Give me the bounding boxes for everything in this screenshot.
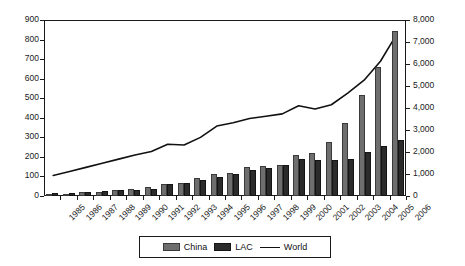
right-axis-tick <box>406 152 410 153</box>
bar-group <box>159 20 175 196</box>
bar-group <box>126 20 142 196</box>
x-axis-tick <box>307 196 308 200</box>
x-axis-label: 2001 <box>330 202 350 222</box>
left-axis-tick-label: 500 <box>6 93 39 102</box>
x-axis-label: 2006 <box>412 202 432 222</box>
right-axis-tick <box>406 64 410 65</box>
bar-lac <box>315 160 321 196</box>
bar-lac <box>69 193 75 196</box>
bar-lac <box>348 159 354 196</box>
bar-lac <box>398 140 404 196</box>
bar-group <box>258 20 274 196</box>
bar-lac <box>118 190 124 196</box>
legend-swatch-china-icon <box>163 243 180 251</box>
x-axis-tick <box>291 196 292 200</box>
right-axis-tick-label: 8,000 <box>413 15 453 24</box>
bar-group <box>390 20 406 196</box>
bar-lac <box>167 184 173 196</box>
x-axis-label: 1995 <box>231 202 251 222</box>
bar-group <box>110 20 126 196</box>
x-axis-label: 1994 <box>215 202 235 222</box>
x-axis-tick <box>176 196 177 200</box>
right-axis-tick <box>406 42 410 43</box>
x-axis-label: 1986 <box>83 202 103 222</box>
x-axis-label: 1997 <box>264 202 284 222</box>
left-axis-tick-label: 600 <box>6 74 39 83</box>
left-axis-tick-label: 200 <box>6 152 39 161</box>
x-axis-label: 1996 <box>248 202 268 222</box>
right-axis-tick-label: 6,000 <box>413 59 453 68</box>
x-axis-label: 1998 <box>281 202 301 222</box>
bar-group <box>274 20 290 196</box>
bar-lac <box>365 152 371 196</box>
x-axis-tick <box>159 196 160 200</box>
bar-lac <box>250 170 256 196</box>
right-axis-tick-label: 2,000 <box>413 147 453 156</box>
left-axis-tick-label: 900 <box>6 15 39 24</box>
chart-legend: China LAC World <box>139 236 331 258</box>
bar-lac <box>381 146 387 196</box>
bar-lac <box>233 174 239 196</box>
bar-group <box>225 20 241 196</box>
bar-group <box>357 20 373 196</box>
bar-group <box>77 20 93 196</box>
bar-group <box>60 20 76 196</box>
right-axis-tick-label: 7,000 <box>413 37 453 46</box>
legend-label-china: China <box>184 242 208 252</box>
bar-lac <box>151 189 157 196</box>
x-axis-label: 1999 <box>297 202 317 222</box>
left-axis-tick-label: 0 <box>6 191 39 200</box>
right-axis-tick <box>406 20 410 21</box>
x-axis-tick <box>77 196 78 200</box>
legend-label-lac: LAC <box>235 242 253 252</box>
x-axis-tick <box>241 196 242 200</box>
x-axis-tick <box>324 196 325 200</box>
x-axis-tick <box>60 196 61 200</box>
right-axis-tick-label: 5,000 <box>413 81 453 90</box>
legend-line-world-icon <box>260 247 280 248</box>
bar-group <box>209 20 225 196</box>
right-axis-tick-label: 0 <box>413 191 453 200</box>
right-axis-tick <box>406 130 410 131</box>
x-axis-tick <box>390 196 391 200</box>
right-axis-tick <box>406 86 410 87</box>
legend-item-lac: LAC <box>214 242 253 252</box>
bar-group <box>176 20 192 196</box>
left-axis-tick-label: 400 <box>6 113 39 122</box>
x-axis-label: 1992 <box>182 202 202 222</box>
bar-lac <box>299 159 305 196</box>
x-axis-tick <box>209 196 210 200</box>
x-axis-tick <box>373 196 374 200</box>
x-axis-tick <box>274 196 275 200</box>
x-axis-tick <box>258 196 259 200</box>
bar-lac <box>134 190 140 196</box>
x-axis-tick <box>340 196 341 200</box>
bar-lac <box>283 165 289 196</box>
x-axis-tick <box>192 196 193 200</box>
bar-lac <box>52 193 58 196</box>
x-axis-tick <box>110 196 111 200</box>
bar-lac <box>200 180 206 196</box>
bar-group <box>192 20 208 196</box>
bar-group <box>324 20 340 196</box>
bar-lac <box>85 192 91 196</box>
bar-group <box>44 20 60 196</box>
x-axis-label: 1985 <box>67 202 87 222</box>
x-axis-tick <box>93 196 94 200</box>
x-axis-label: 1987 <box>100 202 120 222</box>
x-axis-tick <box>143 196 144 200</box>
bar-lac <box>332 160 338 196</box>
x-axis-label: 1990 <box>149 202 169 222</box>
right-axis-tick <box>406 174 410 175</box>
right-axis-tick <box>406 108 410 109</box>
x-axis-label: 2005 <box>396 202 416 222</box>
left-axis-tick <box>40 196 44 197</box>
x-axis-label: 2000 <box>314 202 334 222</box>
bar-group <box>373 20 389 196</box>
bar-group <box>241 20 257 196</box>
x-axis-tick <box>357 196 358 200</box>
chart-container: 0100200300400500600700800900 01,0002,000… <box>0 0 465 266</box>
bar-group <box>93 20 109 196</box>
x-axis-tick <box>406 196 407 200</box>
left-axis-tick-label: 700 <box>6 54 39 63</box>
